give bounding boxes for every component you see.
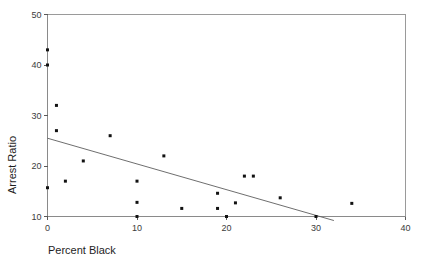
- x-axis-title: Percent Black: [48, 244, 116, 256]
- y-axis-tick-label: 10: [31, 212, 41, 222]
- data-point: [243, 175, 246, 178]
- data-point: [46, 48, 49, 51]
- data-point: [315, 215, 318, 218]
- data-point: [216, 192, 219, 195]
- data-point: [234, 201, 237, 204]
- data-point: [136, 215, 139, 218]
- plot-frame: [48, 15, 406, 217]
- regression-line: [48, 138, 334, 220]
- data-point: [252, 175, 255, 178]
- plot-canvas: 1020304050010203040Percent BlackArrest R…: [0, 0, 421, 263]
- data-point: [64, 180, 67, 183]
- y-axis-tick-label: 20: [31, 161, 41, 171]
- y-axis-title: Arrest Ratio: [6, 136, 18, 194]
- data-point: [225, 215, 228, 218]
- data-point: [136, 201, 139, 204]
- x-axis-tick-label: 0: [45, 223, 50, 233]
- data-point: [109, 134, 112, 137]
- data-point: [46, 64, 49, 67]
- scatter-plot-figure: 1020304050010203040Percent BlackArrest R…: [0, 0, 421, 263]
- x-axis-tick-label: 10: [132, 223, 142, 233]
- data-point: [82, 159, 85, 162]
- data-point: [46, 186, 49, 189]
- data-point: [162, 154, 165, 157]
- data-point: [180, 207, 183, 210]
- data-point: [55, 104, 58, 107]
- data-point: [55, 129, 58, 132]
- data-point: [136, 180, 139, 183]
- x-axis-tick-label: 20: [221, 223, 231, 233]
- data-point: [216, 207, 219, 210]
- x-axis-tick-label: 30: [311, 223, 321, 233]
- x-axis-tick-label: 40: [400, 223, 410, 233]
- data-point: [279, 196, 282, 199]
- data-point: [350, 202, 353, 205]
- y-axis-tick-label: 40: [31, 60, 41, 70]
- y-axis-tick-label: 50: [31, 10, 41, 20]
- y-axis-tick-label: 30: [31, 111, 41, 121]
